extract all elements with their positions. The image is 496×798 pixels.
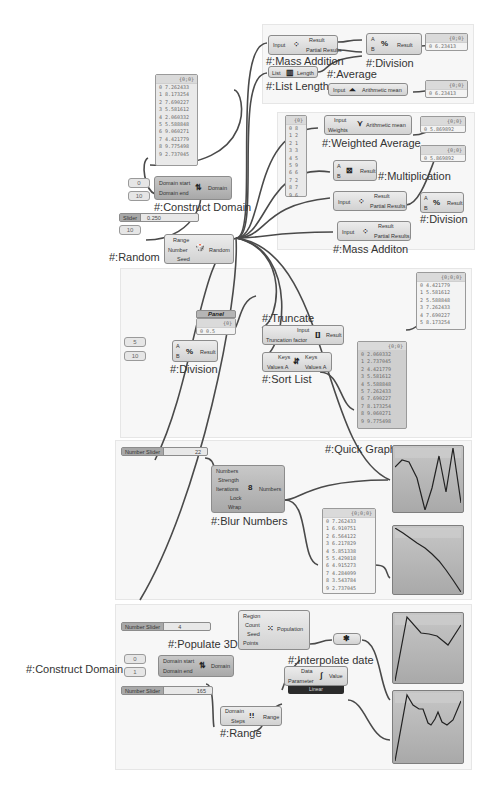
average-result-panel[interactable]: {0;0} 0 6.23413 xyxy=(425,80,468,98)
blur-result-panel[interactable]: {0;0;0} 0 7.262433 1 6.910751 2 6.564122… xyxy=(322,508,376,594)
populate-icon: ⁙ xyxy=(267,624,274,633)
random-values-panel[interactable]: {0;0} 0 7.262433 1 8.173254 2 7.690227 3… xyxy=(155,74,198,166)
division-icon: % xyxy=(186,347,193,356)
slider-value: 4 xyxy=(164,624,210,630)
random-number-input[interactable]: 10 xyxy=(119,225,141,235)
strength-port-label: Strength xyxy=(218,477,239,483)
slider-name: Number Slider xyxy=(122,448,164,455)
panel-header: {0} xyxy=(286,116,306,125)
division-2-result-panel[interactable]: {0;0} 0 5.869892 xyxy=(420,145,466,162)
weights-port-label: Weights xyxy=(328,127,348,133)
mass-addition-3-component[interactable]: Input ⁘ Result Partial Results xyxy=(337,221,411,241)
mass-additon-label: #:Mass Additon xyxy=(333,243,408,255)
seed-port-label: Seed xyxy=(177,256,190,262)
domain-end-port-label: Domain end xyxy=(159,190,189,196)
list-length-component[interactable]: List ▥ Length xyxy=(268,66,318,78)
panel-row: 6 7.690227 xyxy=(358,395,406,402)
keys-port-label: Keys xyxy=(278,354,290,360)
point-param-component[interactable]: ✱ xyxy=(333,633,361,645)
panel-row: 7 4.421779 xyxy=(156,136,197,143)
populate-count-slider[interactable]: Number Slider 4 xyxy=(121,622,211,631)
blur-numbers-component[interactable]: Numbers Strength Iterations Lock Wrap 8 … xyxy=(211,465,285,513)
random-label: #:Random xyxy=(109,251,160,263)
division-b-input[interactable]: 10 xyxy=(124,351,146,361)
panel-header: {0;0} xyxy=(421,117,465,126)
truncation-factor-port-label: Truncation factor xyxy=(266,337,307,343)
multiplication-component[interactable]: A B ⊠ Result xyxy=(333,160,377,181)
data-port-label: Data xyxy=(301,668,313,674)
panel-row: 5 7.262433 xyxy=(358,388,406,395)
truncate-component[interactable]: Input Truncation factor ⌷ Result xyxy=(262,325,344,345)
panel-row: 1 5.581612 xyxy=(417,289,465,296)
panel-row: 5 5.588848 xyxy=(156,121,197,128)
division-mid-label: #:Division xyxy=(170,363,218,375)
domain-end-port-label: Domain end xyxy=(163,668,193,674)
construct-domain-bottom-component[interactable]: Domain start Domain end ⇅ Domain xyxy=(158,655,234,677)
b-port-label: B xyxy=(337,173,341,179)
pencil-panel[interactable]: {0} 0 0.5 xyxy=(196,318,236,335)
mass-addition-icon: ⁘ xyxy=(358,197,365,206)
panel-row: 3 5.581612 xyxy=(156,106,197,113)
domain-start-input[interactable]: 0 xyxy=(128,178,150,188)
panel-row: 2 7.690227 xyxy=(156,99,197,106)
panel-row: 1 8.173254 xyxy=(156,91,197,98)
quick-graph-interpolate-1[interactable] xyxy=(392,612,464,684)
quick-graph-blurred[interactable] xyxy=(392,525,464,595)
panel-row: 5 9 xyxy=(286,162,306,169)
panel-row: 0 6.23413 xyxy=(426,90,467,97)
weighted-average-label: #:Weighted Average xyxy=(322,137,421,149)
blur-iterations-slider[interactable]: Number Slider 22 xyxy=(121,447,208,456)
random-seed-slider[interactable]: Slider 0.250 xyxy=(119,213,199,222)
panel-row: 0 7.262433 xyxy=(156,84,197,91)
quick-graph-interpolate-2[interactable] xyxy=(392,690,464,764)
weighted-average-result-panel[interactable]: {0;0} 0 5.869892 xyxy=(420,116,466,133)
result-port-label: Result xyxy=(200,349,216,355)
division-icon: % xyxy=(433,198,440,207)
weighted-average-icon: ⋎ xyxy=(357,119,363,128)
average-component[interactable]: Input ⏶ Arithmetic mean xyxy=(328,83,408,96)
division-2-component[interactable]: A B % Result xyxy=(420,192,464,213)
panel-row: 8 3.543784 xyxy=(323,577,375,584)
mass-addition-icon: ⁘ xyxy=(362,227,369,236)
panel-row: 4 2.060332 xyxy=(156,114,197,121)
bottom-domain-end-input[interactable]: 1 xyxy=(124,667,146,677)
panel-row: 2 5.588848 xyxy=(417,297,465,304)
weighted-average-component[interactable]: Input Weights ⋎ Arithmetic mean xyxy=(324,115,412,135)
interpolation-mode-dropdown[interactable]: Linear xyxy=(288,686,344,694)
domain-end-input[interactable]: 10 xyxy=(128,191,150,201)
list-port-label: List xyxy=(272,70,281,76)
result-port-label: Result xyxy=(360,168,376,174)
sort-result-panel[interactable]: {0;0} 0 2.060332 1 2.737045 2 4.421779 3… xyxy=(357,341,407,429)
truncate-result-panel[interactable]: {0;0;0} 0 4.421779 1 5.581612 2 5.588848… xyxy=(416,272,466,330)
mass-addition-2-component[interactable]: Input ⁘ Result Partial Results xyxy=(333,191,407,211)
quick-graph-label: #:Quick Graph xyxy=(325,443,396,455)
division-component[interactable]: A B % Result xyxy=(366,33,422,55)
blur-numbers-label: #:Blur Numbers xyxy=(211,515,287,527)
a-port-label: A xyxy=(176,343,180,349)
interpolate-date-component[interactable]: Data Parameter ∫ Value xyxy=(284,666,348,686)
construct-domain-component[interactable]: Domain start Domain end ⇅ Domain xyxy=(154,176,232,200)
partial-results-port-label: Partial Results xyxy=(374,233,409,239)
panel-row: 2 4.421779 xyxy=(358,366,406,373)
seed-port-label: Seed xyxy=(247,631,260,637)
panel-row: 8 7 xyxy=(286,184,306,191)
blur-icon: 8 xyxy=(248,483,252,492)
weights-panel[interactable]: {0} 0 8 1 2 2 1 3 3 4 5 5 9 6 6 7 2 8 7 … xyxy=(285,115,307,197)
sort-list-component[interactable]: Keys Values A ⇵ Keys Values A xyxy=(262,352,332,372)
range-component[interactable]: Domain Steps ⁞⁞ Range xyxy=(220,706,282,726)
random-component[interactable]: Range Number Seed 🎲 Random xyxy=(164,234,234,264)
populate-3d-component[interactable]: Region Count Seed Points ⁙ Population xyxy=(238,610,310,650)
division-a-input[interactable]: 5 xyxy=(124,337,146,347)
bottom-domain-start-input[interactable]: 0 xyxy=(124,654,146,664)
mass-addition-component[interactable]: Input ⁘ Result Partial Results xyxy=(268,35,338,55)
range-steps-slider[interactable]: Number Slider 165 xyxy=(121,686,213,695)
panel-row: 9 6 xyxy=(286,192,306,199)
panel-row: 9 2.737045 xyxy=(323,585,375,592)
panel-header: {0} xyxy=(197,319,235,328)
panel-row: 2 6.564122 xyxy=(323,533,375,540)
quick-graph-random[interactable] xyxy=(392,445,464,513)
mass-division-result-panel[interactable]: {0;0} 0 6.23413 xyxy=(425,33,468,51)
average-icon: ⏶ xyxy=(349,85,355,95)
division-mid-component[interactable]: A B % Result xyxy=(172,340,218,362)
keys-out-port-label: Keys xyxy=(305,354,317,360)
